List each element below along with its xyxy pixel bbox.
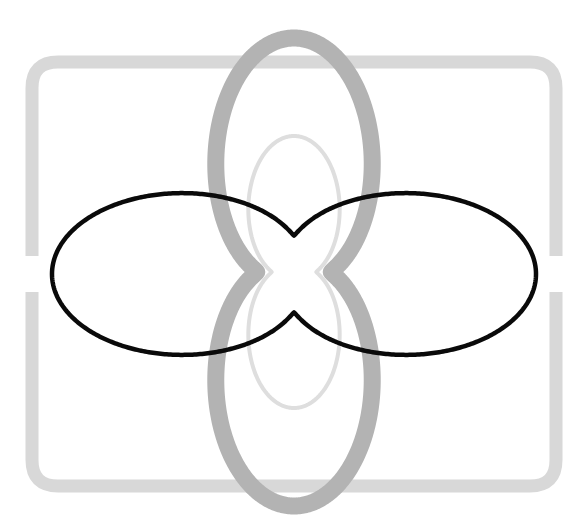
figure-canvas: Nested rosette curves with rounded frame: [0, 0, 588, 528]
middle-vertical-rosette-curve: [216, 38, 372, 506]
outer-horizontal-rosette-curve: [52, 193, 536, 355]
frame-lower-segment: [32, 292, 556, 486]
rosette-figure: Nested rosette curves with rounded frame: [0, 0, 588, 528]
frame-group: [32, 62, 556, 486]
frame-upper-segment: [32, 62, 556, 256]
